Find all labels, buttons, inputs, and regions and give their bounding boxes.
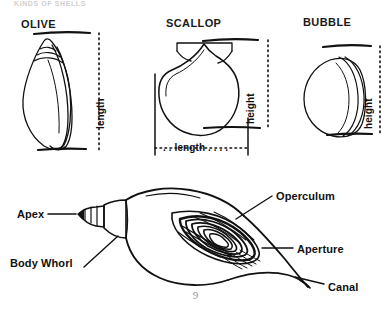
callout-label-operculum: Operculum [276,190,335,202]
measurement-label-scallop-length: . . length . . . . [163,142,228,153]
callout-label-apex: Apex [17,208,44,220]
figure-page: KINDS OF SHELLS OLIVE SCALLOP BUBBLE [0,0,391,311]
callout-label-body-whorl: Body Whorl [10,257,73,269]
running-header: KINDS OF SHELLS [14,0,164,7]
measurement-label-olive-length: length [95,98,106,129]
page-number: 9 [0,289,391,301]
olive-shell-drawing [23,32,99,151]
measurement-label-bubble-height: height [363,98,374,129]
callout-label-aperture: Aperture [297,243,344,255]
specimen-title-bubble: BUBBLE [303,16,351,28]
specimen-title-scallop: SCALLOP [166,17,221,29]
measurement-label-scallop-height: height [245,93,256,124]
operculum-hatching [178,212,255,260]
specimen-title-olive: OLIVE [21,18,56,30]
gastropod-shell-drawing [48,188,324,288]
